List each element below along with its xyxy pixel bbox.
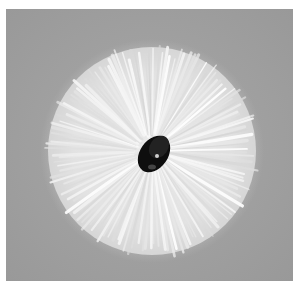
brush-photo: [6, 9, 293, 281]
brush-illustration: [6, 9, 293, 281]
